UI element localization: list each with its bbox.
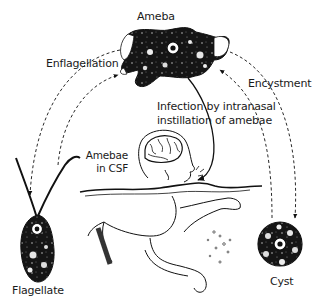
infection-label-line1: Infection by intranasal xyxy=(157,100,276,113)
infection-label-line2: instillation of amebae xyxy=(157,114,272,127)
ameba-organism xyxy=(120,28,229,87)
amebae-label-line1: Amebae xyxy=(84,149,128,162)
life-cycle-diagram xyxy=(0,0,315,304)
cyst-organism xyxy=(258,222,302,266)
encystment-label: Encystment xyxy=(248,77,311,90)
cyst-to-ameba-arrow xyxy=(220,70,272,218)
ameba-label: Ameba xyxy=(137,10,175,23)
amebae-label-line2: in CSF xyxy=(84,162,128,175)
flagellate-label: Flagellate xyxy=(12,284,64,297)
cyst-label: Cyst xyxy=(270,275,293,288)
enflagellation-label: Enflagellation xyxy=(46,57,118,70)
flagellate-organism xyxy=(16,157,80,282)
